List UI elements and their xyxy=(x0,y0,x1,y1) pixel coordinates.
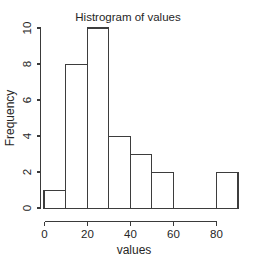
x-tick-label-20: 20 xyxy=(81,228,94,240)
y-tick-label-10: 10 xyxy=(21,22,33,35)
histogram-bar xyxy=(152,172,174,208)
y-tick-label-2: 2 xyxy=(21,169,33,175)
plot-title: Histrogram of values xyxy=(75,11,181,23)
histogram-bar xyxy=(130,154,152,208)
plot-canvas: Histrogram of values 0 2 4 6 8 10 Freque… xyxy=(0,0,256,260)
y-axis-title: Frequency xyxy=(3,90,17,147)
histogram-bar xyxy=(109,136,131,208)
histogram-bars xyxy=(44,28,238,209)
y-tick-label-8: 8 xyxy=(21,61,33,67)
histogram-bar xyxy=(66,64,88,208)
histogram-bar xyxy=(216,172,238,208)
x-tick-label-40: 40 xyxy=(124,228,137,240)
y-tick-label-0: 0 xyxy=(21,205,33,211)
x-axis-tick-labels: 0 20 40 60 80 xyxy=(41,228,223,240)
x-axis-ticks xyxy=(45,222,217,227)
y-axis-ticks xyxy=(37,28,41,208)
y-tick-label-4: 4 xyxy=(21,132,33,139)
y-axis-tick-labels: 0 2 4 6 8 10 xyxy=(21,22,33,212)
x-tick-label-80: 80 xyxy=(210,228,223,240)
x-tick-label-60: 60 xyxy=(167,228,180,240)
y-tick-label-6: 6 xyxy=(21,97,33,103)
histogram-bar xyxy=(87,28,109,209)
histogram-bar xyxy=(44,190,66,208)
histogram-plot: Histrogram of values 0 2 4 6 8 10 Freque… xyxy=(0,0,256,260)
x-axis-title: values xyxy=(117,243,152,257)
x-tick-label-0: 0 xyxy=(41,228,47,240)
